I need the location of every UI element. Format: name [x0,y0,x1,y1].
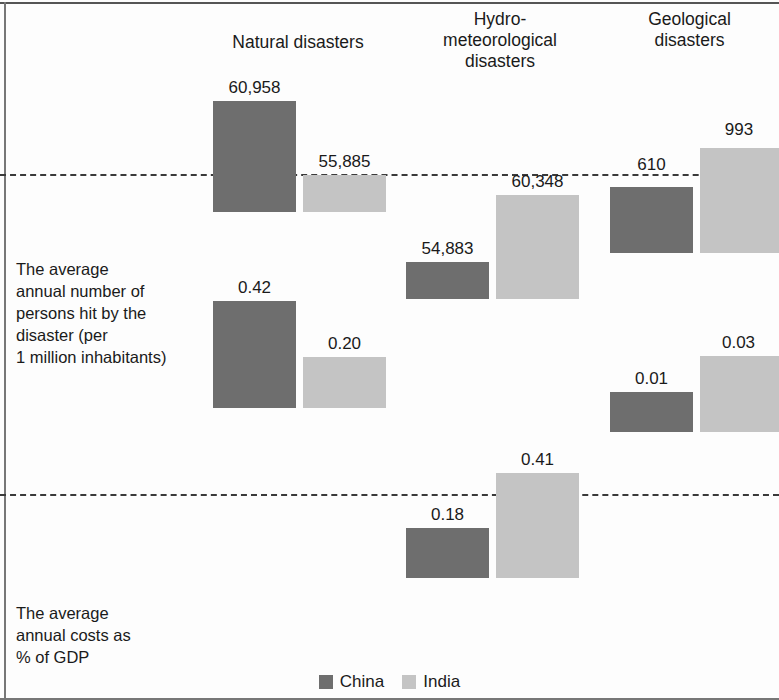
bar-persons-hydro-china [406,262,489,299]
section-label-persons-hit: The average annual number of persons hit… [16,258,231,368]
chart-container: Natural disasters Hydro- meteorological … [0,0,779,700]
bar-persons-geological-india [700,148,779,253]
legend-swatch-india-icon [402,675,416,689]
bar-costs-hydro-india [496,473,579,578]
bar-persons-hydro-india [496,195,579,299]
column-header-hydro-meteorological-disasters: Hydro- meteorological disasters [400,9,600,72]
section-label-persons-line3: persons hit by the [16,302,231,324]
bar-costs-geological-india [700,356,779,432]
bar-value-costs-geological-india: 0.03 [690,333,779,352]
column-header-hydro-line1: Hydro- [400,9,600,30]
bar-value-persons-hydro-china: 54,883 [396,239,499,258]
section-label-persons-line2: annual number of [16,280,231,302]
legend-label-india: India [423,672,460,692]
section-label-persons-line5: 1 million inhabitants) [16,346,231,368]
bar-value-persons-natural-india: 55,885 [293,152,396,171]
chart-legend: China India [0,672,779,692]
bar-costs-natural-china [213,301,296,408]
column-header-hydro-line2: meteorological [400,30,600,51]
legend-swatch-china-icon [319,675,333,689]
column-header-geological-disasters: Geological disasters [600,9,779,51]
bar-value-costs-natural-india: 0.20 [293,334,396,353]
section-label-costs-line2: annual costs as [16,624,231,646]
bar-persons-natural-china [213,101,296,212]
bar-value-costs-natural-china: 0.42 [203,278,306,297]
section-label-costs-line3: % of GDP [16,646,231,668]
section-label-annual-costs: The average annual costs as % of GDP [16,602,231,668]
column-header-natural-line1: Natural disasters [198,32,398,53]
section-label-costs-line1: The average [16,602,231,624]
bar-costs-natural-india [303,357,386,408]
bar-persons-geological-china [610,187,693,253]
bar-value-persons-natural-china: 60,958 [203,78,306,97]
legend-item-china: China [319,672,384,692]
section-label-persons-line4: disaster (per [16,324,231,346]
bar-value-persons-geological-india: 993 [692,120,779,139]
column-header-geological-line1: Geological [600,9,779,30]
column-header-geological-line2: disasters [600,30,779,51]
legend-label-china: China [340,672,384,692]
section-label-persons-line1: The average [16,258,231,280]
bar-persons-natural-india [303,175,386,212]
bar-value-persons-hydro-india: 60,348 [486,172,589,191]
bar-costs-hydro-china [406,528,489,578]
bar-value-costs-hydro-china: 0.18 [396,505,499,524]
bar-value-costs-geological-china: 0.01 [600,369,703,388]
column-header-hydro-line3: disasters [400,51,600,72]
bar-value-costs-hydro-india: 0.41 [486,450,589,469]
frame-left-border [4,2,6,700]
legend-item-india: India [402,672,460,692]
bar-value-persons-geological-china: 610 [600,155,703,174]
bar-costs-geological-china [610,392,693,432]
frame-top-border [0,2,779,4]
baseline-persons [0,174,779,176]
column-header-natural-disasters: Natural disasters [198,32,398,53]
baseline-costs [0,494,779,496]
